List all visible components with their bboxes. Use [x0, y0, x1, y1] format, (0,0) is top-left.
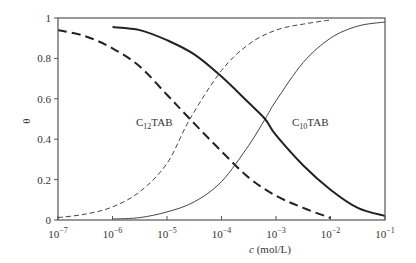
x-tick-label: 10−5: [157, 226, 177, 240]
x-tick-label: 10−1: [375, 226, 395, 240]
y-tick-label: 0.8: [37, 52, 51, 64]
y-axis-title: θ: [20, 118, 32, 123]
chart: 10−710−610−510−410−310−210−1 00.20.40.60…: [0, 0, 416, 263]
series-label: C12TAB: [136, 116, 172, 131]
y-tick-label: 0.4: [37, 133, 51, 145]
x-axis-title: c (mol/L): [249, 243, 291, 256]
y-tick-label: 0.6: [37, 93, 51, 105]
x-tick-label: 10−3: [266, 226, 286, 240]
series-layer: [58, 20, 385, 219]
series-annotations: C12TABC10TAB: [136, 116, 328, 131]
x-tick-label: 10−2: [321, 226, 341, 240]
series-line-thick-dashed: [58, 30, 331, 218]
x-tick-label: 10−4: [212, 226, 232, 240]
x-tick-label: 10−6: [103, 226, 123, 240]
plot-frame: [58, 18, 385, 220]
x-axis-unit: (mol/L): [254, 243, 291, 256]
y-tick-label: 0: [46, 214, 52, 226]
y-axis-ticks: 00.20.40.60.81: [37, 12, 58, 226]
series-label: C10TAB: [292, 116, 328, 131]
series-line-thin-dashed: [58, 20, 331, 218]
y-tick-label: 0.2: [37, 174, 51, 186]
x-tick-label: 10−7: [48, 226, 68, 240]
y-tick-label: 1: [46, 12, 52, 24]
